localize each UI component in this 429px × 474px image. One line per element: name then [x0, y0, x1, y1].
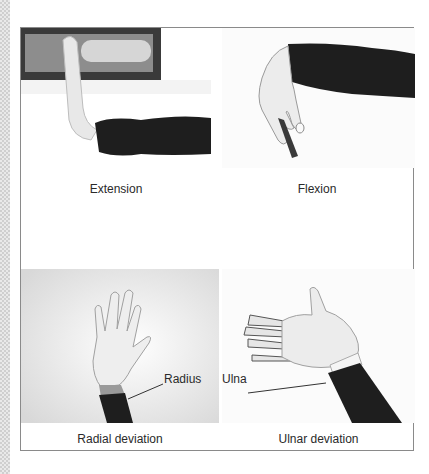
caption-flexion: Flexion — [222, 182, 412, 196]
wrist-motion-figure: Extension Flexion Radius Rad — [20, 27, 414, 451]
label-radius: Radius — [164, 372, 201, 386]
caption-ulnar-deviation: Ulnar deviation — [222, 432, 415, 446]
flexion-photo — [222, 28, 415, 168]
caption-radial-deviation: Radial deviation — [21, 432, 219, 446]
radial-deviation-photo — [21, 269, 219, 423]
panel-flexion — [222, 28, 415, 168]
ulnar-deviation-photo — [222, 269, 415, 423]
panel-ulnar-deviation: Ulna — [222, 269, 415, 423]
caption-extension: Extension — [21, 182, 211, 196]
extension-photo — [21, 28, 211, 158]
panel-radial-deviation: Radius — [21, 269, 219, 423]
label-ulna: Ulna — [222, 372, 247, 386]
left-edge-hatch — [0, 0, 10, 474]
panel-extension — [21, 28, 211, 158]
